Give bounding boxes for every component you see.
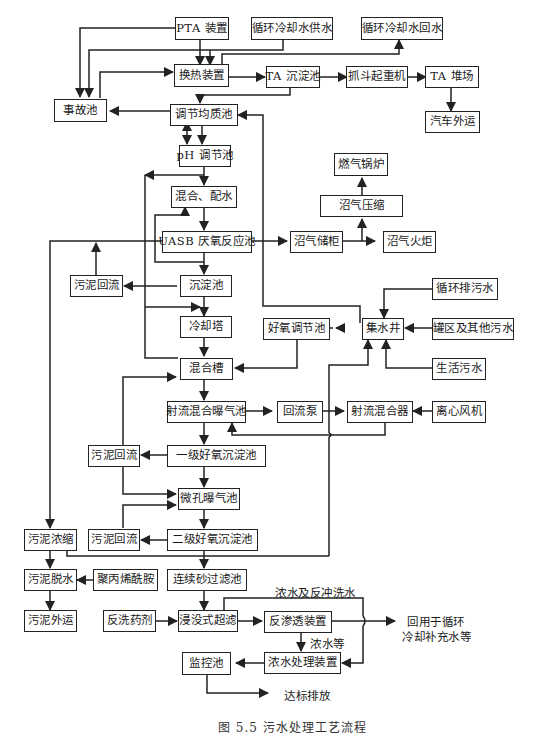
node-settling-tank: 沉淀池 [180, 275, 232, 297]
node-equalization-tank: 调节均质池 [170, 104, 238, 126]
node-pta-unit: PTA 装置 [175, 17, 229, 40]
node-ta-yard: TA 堆场 [425, 66, 479, 88]
node-monitoring-pool: 监控池 [182, 652, 231, 675]
label-reuse-line2: 冷却补充水等 [402, 628, 471, 644]
node-secondary-aerobic-clarifier: 二级好氧沉淀池 [167, 529, 258, 551]
node-cooling-water-supply: 循环冷却水供水 [251, 17, 333, 40]
node-mix-tank: 混合槽 [180, 358, 233, 380]
node-gas-boiler: 燃气锅炉 [334, 153, 388, 176]
node-polyacrylamide: 聚丙烯酰胺 [93, 569, 158, 591]
node-return-pump: 回流泵 [277, 401, 323, 423]
node-sump: 集水井 [362, 318, 404, 340]
label-concentrate-etc: 浓水等 [310, 635, 345, 651]
node-sludge-thickening: 污泥浓缩 [24, 529, 77, 551]
node-sludge-return-2: 污泥回流 [88, 445, 140, 467]
node-backwash-agent: 反洗药剂 [103, 610, 156, 632]
node-biogas-holder: 沼气储柜 [290, 231, 343, 253]
node-continuous-sand-filter: 连续砂过滤池 [167, 569, 247, 591]
node-sludge-dewatering: 污泥脱水 [24, 569, 77, 591]
node-truck-transport: 汽车外运 [425, 111, 480, 133]
node-ta-settling: TA 沉淀池 [266, 66, 320, 88]
node-jet-aeration-tank: 射流混合曝气池 [167, 401, 246, 423]
node-domestic-sewage: 生活污水 [432, 358, 486, 380]
node-submerged-ultrafiltration: 浸没式超滤 [178, 610, 238, 632]
node-sludge-return-3: 污泥回流 [88, 529, 140, 551]
node-sludge-transport: 污泥外运 [24, 610, 77, 632]
label-reuse-line1: 回用于循环 [407, 613, 465, 629]
node-aerobic-adjust-tank: 好氧调节池 [263, 318, 330, 340]
node-cycle-discharge: 循环排污水 [432, 278, 498, 300]
node-mix-distribution: 混合、配水 [171, 186, 237, 208]
node-cooling-water-return: 循环冷却水回水 [361, 17, 443, 40]
figure-caption: 图 5.5 污水处理工艺流程 [218, 718, 367, 735]
node-primary-aerobic-clarifier: 一级好氧沉淀池 [167, 445, 266, 467]
node-ph-adjust-tank: pH 调节池 [179, 145, 231, 167]
label-concentrate-backwash: 浓水及反冲洗水 [275, 584, 356, 600]
node-tank-area-wastewater: 罐区及其他污水 [432, 318, 514, 340]
node-cooling-tower: 冷却塔 [180, 316, 232, 338]
node-biogas-flare: 沼气火炬 [383, 231, 436, 253]
node-grab-crane: 抓斗起重机 [346, 66, 408, 88]
node-accident-pool: 事故池 [54, 99, 107, 122]
node-sludge-return-1: 污泥回流 [70, 275, 123, 297]
label-compliant-discharge: 达标排放 [284, 687, 330, 703]
node-reverse-osmosis: 反渗透装置 [264, 611, 332, 633]
node-jet-mixer: 射流混合器 [347, 401, 413, 423]
node-micropore-aeration-tank: 微孔曝气池 [178, 488, 240, 510]
node-uasb-reactor: UASB 厌氧反应池 [162, 231, 252, 253]
node-concentrate-treatment: 浓水处理装置 [264, 652, 341, 674]
node-centrifugal-blower: 离心风机 [432, 401, 486, 423]
node-heat-exchanger: 换热装置 [174, 64, 229, 87]
node-biogas-compression: 沼气压缩 [320, 195, 403, 217]
